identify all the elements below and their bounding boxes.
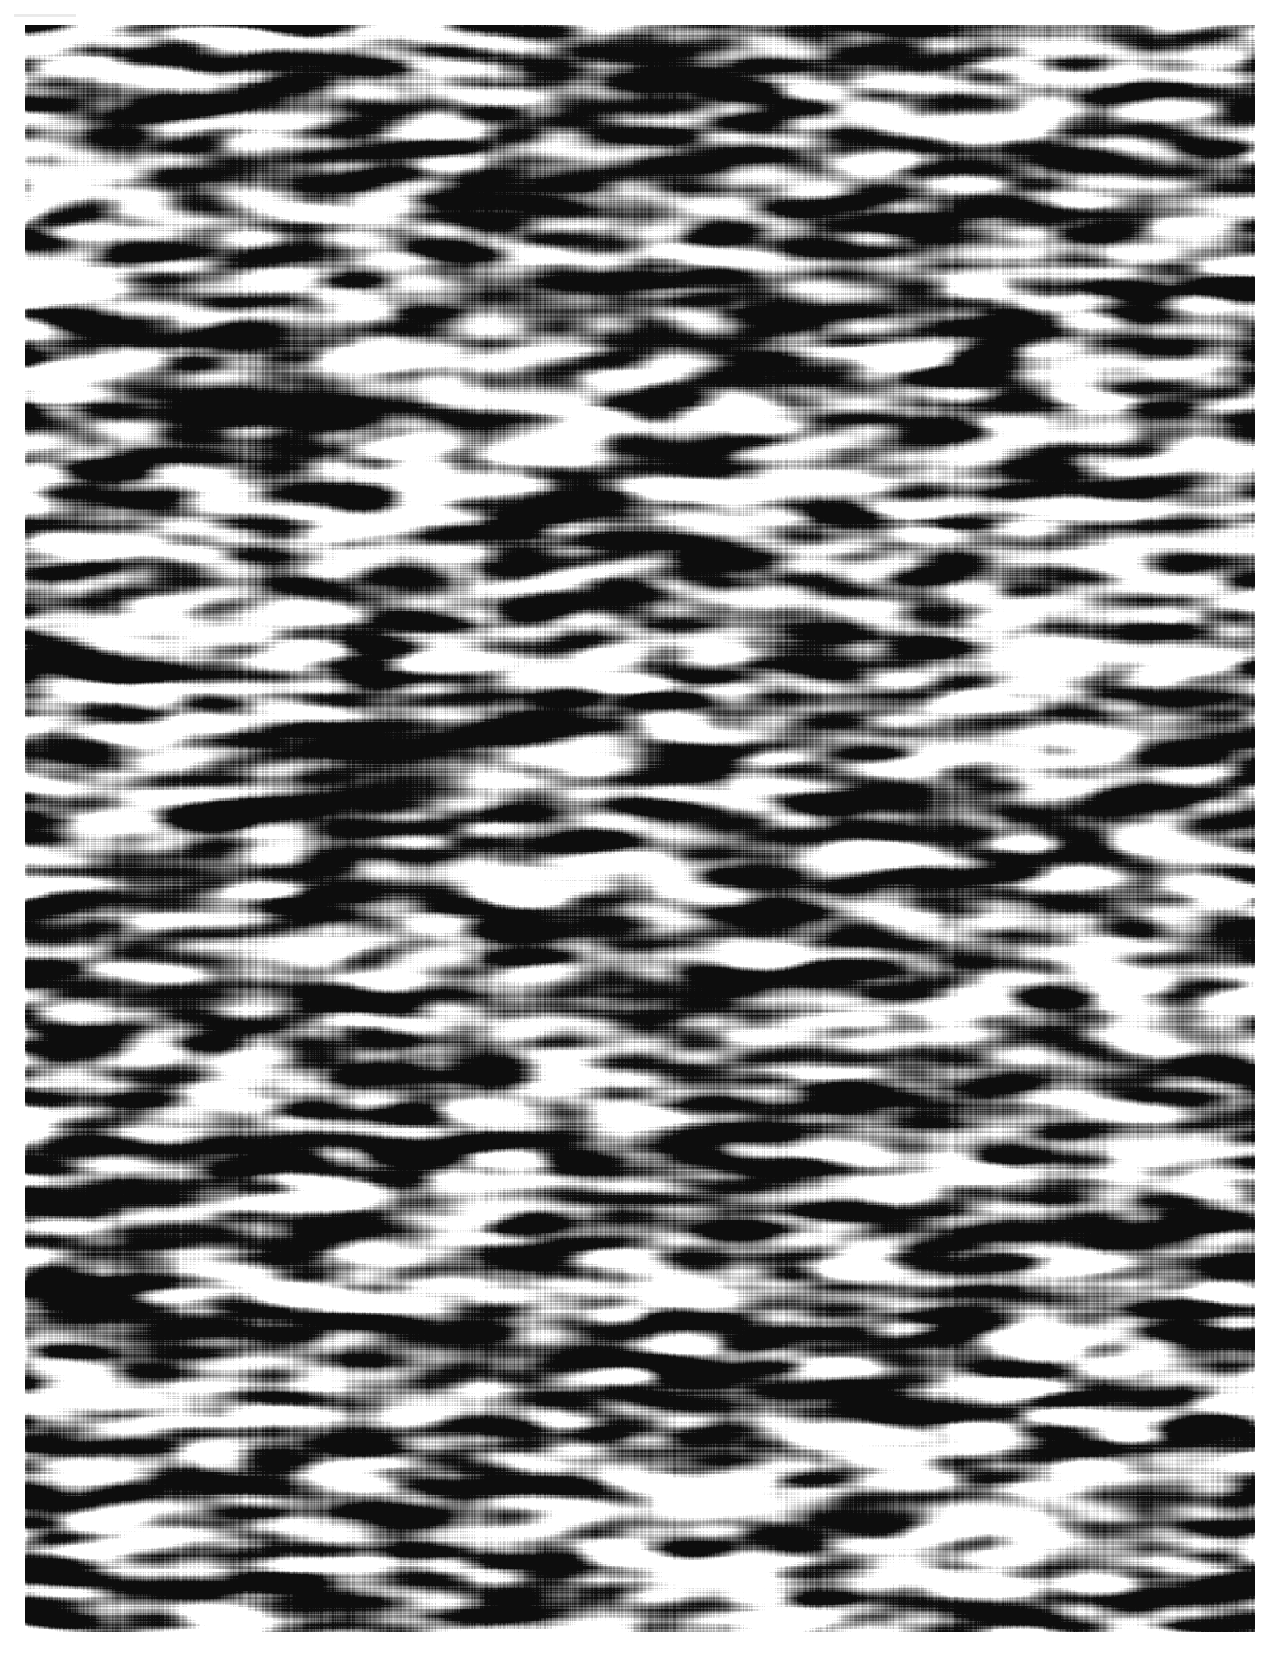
scanned-page bbox=[0, 0, 1280, 1676]
noise-texture-canvas bbox=[25, 25, 1255, 1632]
scanner-streak-artifact bbox=[14, 14, 76, 17]
noise-texture-region bbox=[25, 25, 1255, 1632]
